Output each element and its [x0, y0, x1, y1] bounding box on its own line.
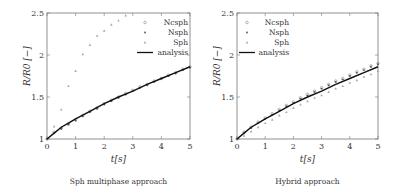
- data-point-sph: [370, 73, 373, 75]
- legend-circle-marker: [144, 21, 147, 24]
- legend-label: Nsph: [269, 28, 289, 37]
- legend-circle-marker: [246, 21, 249, 24]
- series-analysis: [47, 67, 190, 139]
- x-tick-label: 0: [44, 142, 49, 151]
- series-sph: [243, 70, 380, 137]
- data-point-sph: [74, 70, 77, 72]
- y-tick-label: 1: [229, 135, 234, 144]
- data-point-sph: [89, 44, 92, 46]
- data-point-sph: [60, 108, 63, 110]
- legend-label: Nsph: [168, 28, 188, 37]
- y-axis-label: R/R0 [−]: [22, 46, 32, 87]
- legend-label: Ncsph: [265, 18, 289, 27]
- y-tick-label: 1: [39, 135, 44, 144]
- data-point-nsph: [370, 66, 372, 68]
- data-point-sph: [285, 111, 288, 113]
- data-point-nsph: [342, 78, 344, 80]
- x-tick-label: 1: [73, 142, 78, 151]
- data-point-nsph: [377, 63, 379, 65]
- chart-caption: Sph multiphase approach: [70, 177, 168, 186]
- y-tick-label: 2: [229, 51, 234, 60]
- data-point-sph: [96, 34, 99, 36]
- data-point-nsph: [307, 94, 309, 96]
- series-ncsph: [46, 65, 192, 140]
- y-tick-label: 1.5: [31, 93, 44, 102]
- legend-triangle-marker: [246, 41, 249, 44]
- data-point-sph: [278, 114, 281, 116]
- y-tick-label: 2.5: [221, 9, 234, 18]
- data-point-sph: [320, 94, 323, 96]
- data-point-sph: [363, 75, 366, 77]
- data-point-sph: [81, 53, 84, 55]
- data-point-sph: [271, 118, 274, 120]
- data-point-sph: [117, 19, 120, 21]
- y-tick-label: 2.5: [31, 9, 44, 18]
- x-tick-label: 5: [187, 142, 192, 151]
- data-point-sph: [110, 23, 113, 25]
- data-point-sph: [103, 29, 106, 31]
- legend-label: analysis: [157, 48, 188, 57]
- legend-triangle-marker: [144, 41, 147, 44]
- data-point-sph: [306, 100, 309, 102]
- data-point-sph: [299, 103, 302, 105]
- series-nsph: [46, 67, 191, 140]
- legend-label: Sph: [274, 38, 289, 47]
- data-point-nsph: [356, 72, 358, 74]
- data-point-nsph: [335, 81, 337, 83]
- figure: 01234511.522.5t[s]R/R0 [−]Sph multiphase…: [0, 0, 393, 191]
- data-point-sph: [313, 96, 316, 98]
- data-point-sph: [264, 122, 267, 124]
- x-tick-label: 2: [291, 142, 296, 151]
- legend: NcsphNsphSphanalysis: [137, 18, 188, 57]
- series-sph: [53, 14, 127, 127]
- data-point-nsph: [321, 88, 323, 90]
- x-axis-label: t[s]: [300, 154, 316, 164]
- legend-label: analysis: [258, 48, 289, 57]
- data-point-sph: [356, 79, 359, 81]
- data-point-sph: [349, 81, 352, 83]
- legend-dot-marker: [144, 32, 146, 34]
- x-tick-label: 5: [375, 142, 380, 151]
- x-tick-label: 4: [347, 142, 352, 151]
- chart-sph-multiphase: 01234511.522.5t[s]R/R0 [−]Sph multiphase…: [22, 9, 193, 186]
- x-tick-label: 4: [159, 142, 164, 151]
- data-point-nsph: [314, 91, 316, 93]
- data-point-nsph: [363, 69, 365, 71]
- x-tick-label: 1: [263, 142, 268, 151]
- data-point-sph: [292, 107, 295, 109]
- chart-hybrid: 01234511.522.5t[s]R/R0 [−]Hybrid approac…: [212, 9, 381, 186]
- chart-caption: Hybrid approach: [275, 177, 340, 186]
- data-point-sph: [124, 14, 127, 16]
- x-tick-label: 3: [130, 142, 135, 151]
- data-point-sph: [377, 70, 380, 72]
- y-tick-label: 1.5: [221, 93, 234, 102]
- x-tick-label: 0: [234, 142, 239, 151]
- y-axis-label: R/R0 [−]: [212, 46, 222, 87]
- data-point-sph: [53, 125, 56, 127]
- data-point-sph: [250, 130, 253, 132]
- data-point-sph: [67, 85, 70, 87]
- y-tick-label: 2: [39, 51, 44, 60]
- x-tick-label: 3: [319, 142, 324, 151]
- x-tick-label: 2: [102, 142, 107, 151]
- data-point-sph: [341, 85, 344, 87]
- legend: NcsphNsphSphanalysis: [239, 18, 289, 57]
- analysis-line: [47, 67, 190, 139]
- data-point-nsph: [328, 84, 330, 86]
- legend-dot-marker: [246, 32, 248, 34]
- x-axis-label: t[s]: [111, 154, 127, 164]
- data-point-sph: [327, 91, 330, 93]
- legend-label: Sph: [173, 38, 188, 47]
- data-point-sph: [334, 87, 337, 89]
- data-point-sph: [257, 126, 260, 128]
- data-point-nsph: [349, 75, 351, 77]
- legend-label: Ncsph: [164, 18, 188, 27]
